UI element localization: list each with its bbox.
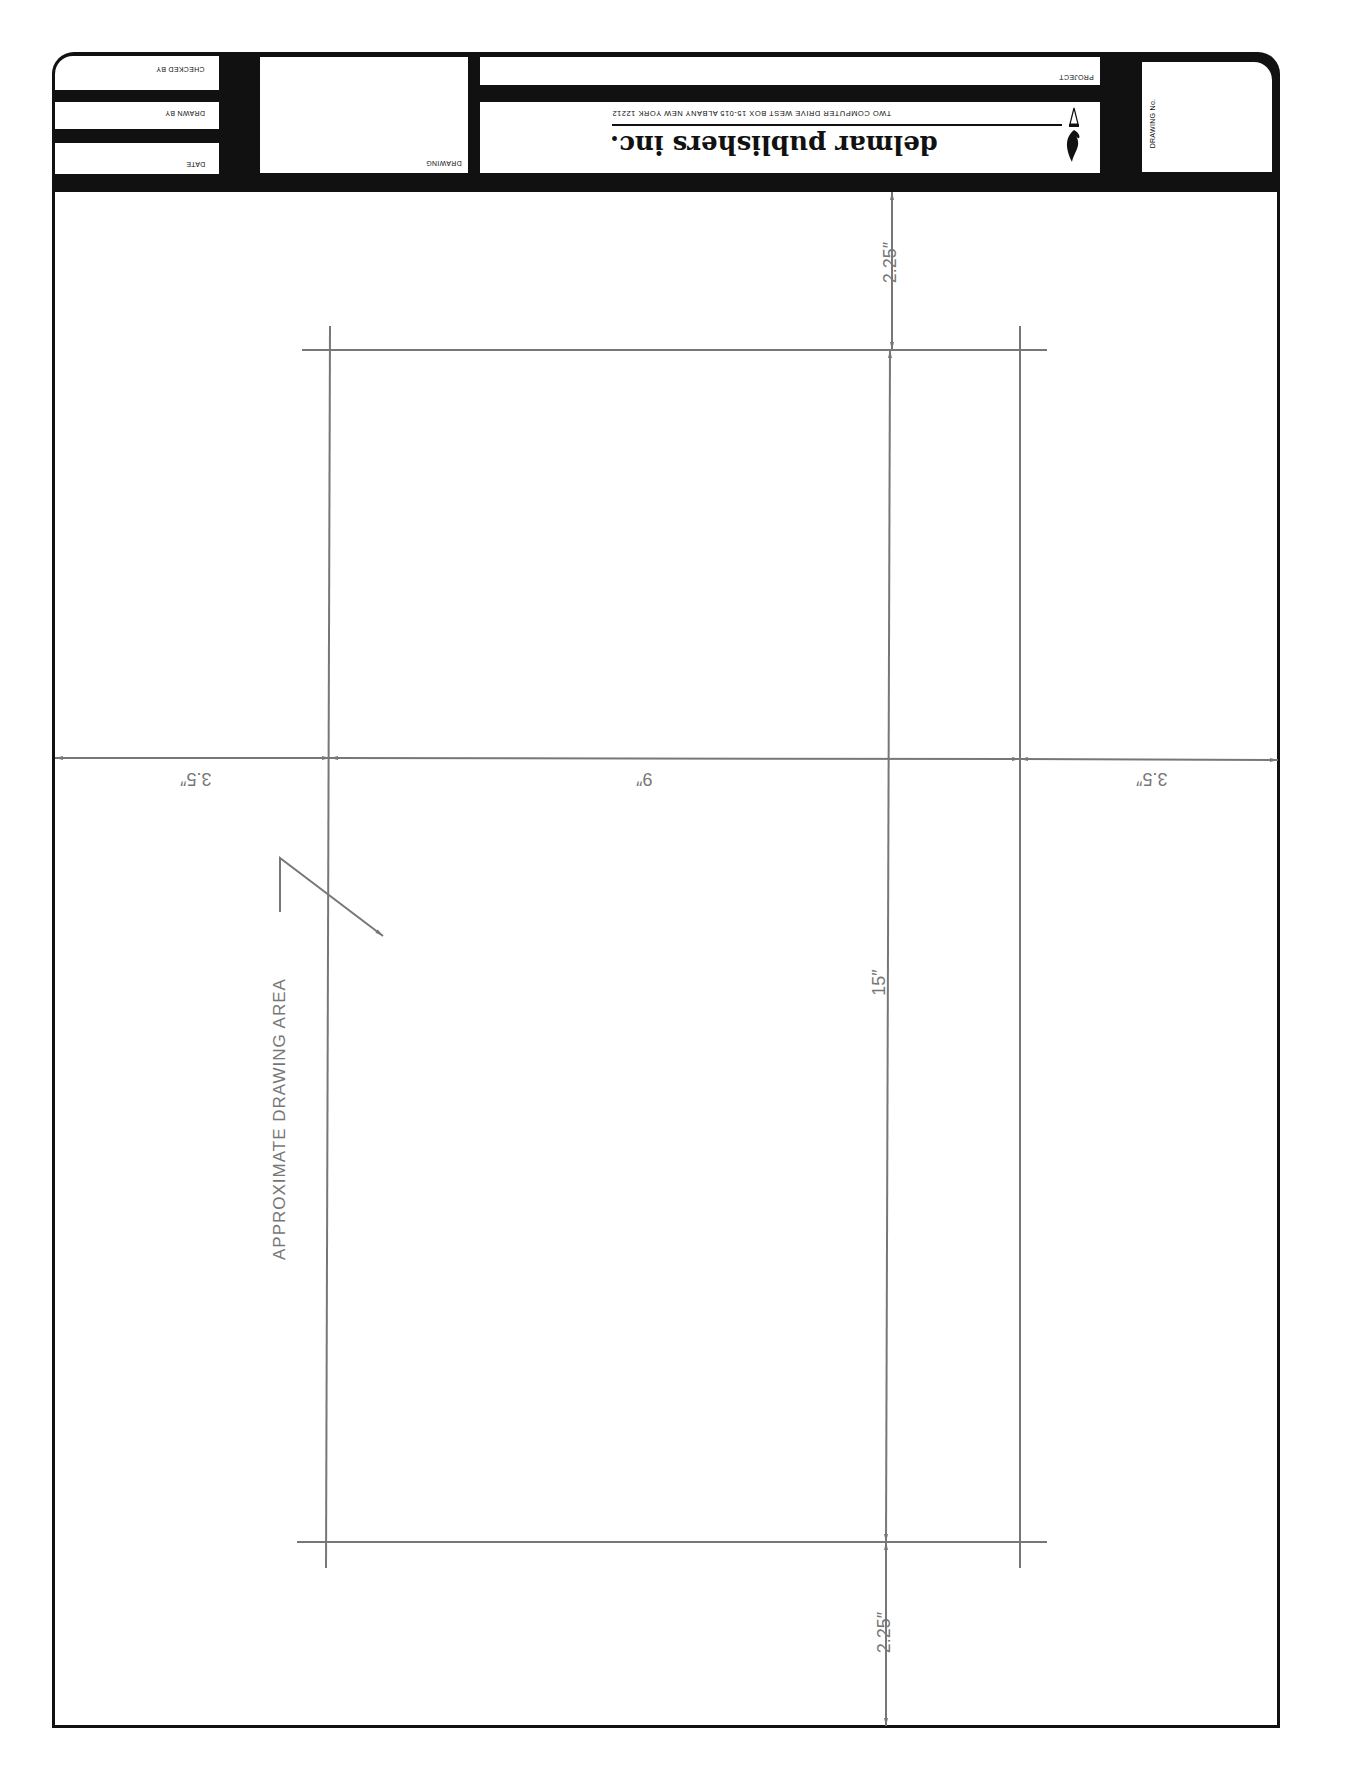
approximate-drawing-area-label: APPROXIMATE DRAWING AREA bbox=[270, 978, 290, 1260]
height-dimension: 15″ bbox=[869, 969, 890, 995]
left-margin-dimension: 3.5″ bbox=[180, 768, 211, 789]
drawing-sheet: CHECKED BY DRAWN BY DATE DRAWING PROJECT… bbox=[0, 0, 1345, 1780]
right-margin-dimension: 3.5″ bbox=[1136, 768, 1167, 789]
bottom-margin-dimension: 2.25″ bbox=[874, 1612, 895, 1653]
width-dimension: 9″ bbox=[636, 768, 652, 789]
top-margin-dimension: 2.25″ bbox=[880, 242, 901, 283]
dimension-lines bbox=[0, 0, 1345, 1780]
left-boundary-line bbox=[326, 326, 330, 1568]
